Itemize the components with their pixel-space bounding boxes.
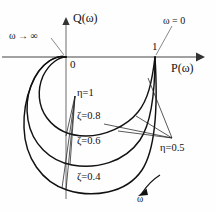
omega-direction-label: ω — [137, 195, 143, 205]
leader-lines-eta-1 — [62, 96, 75, 190]
curve-label-zeta-0-8: ζ=0.8 — [77, 111, 100, 122]
horizontal-axis-label: P(ω) — [171, 62, 194, 74]
marker-label-eta-1: η=1 — [77, 88, 94, 99]
omega-infinity-annotation: ω → ∞ — [9, 31, 38, 41]
vertical-axis-arrowhead — [62, 17, 69, 25]
horizontal-axis-arrowhead — [196, 53, 205, 62]
polar-plot-figure: Q(ω) P(ω) 0 1 ω → ∞ ω = 0 η=1 ζ=0.8 ζ=0.… — [0, 0, 216, 211]
marker-label-eta-0-5: η=0.5 — [160, 143, 185, 154]
curve-label-zeta-0-6: ζ=0.6 — [77, 136, 100, 147]
unity-tick-label: 1 — [152, 41, 158, 52]
curve-zeta-0-8 — [39, 57, 155, 136]
omega-zero-annotation: ω = 0 — [163, 16, 185, 26]
curve-label-zeta-0-4: ζ=0.4 — [77, 172, 100, 183]
omega-direction-arrow — [138, 175, 160, 196]
vertical-axis-label: Q(ω) — [73, 12, 98, 24]
leader-line-omega-zero — [156, 26, 172, 55]
leader-line-omega-infinity — [51, 38, 64, 55]
axis-group — [2, 17, 205, 199]
origin-tick-label: 0 — [70, 59, 76, 70]
